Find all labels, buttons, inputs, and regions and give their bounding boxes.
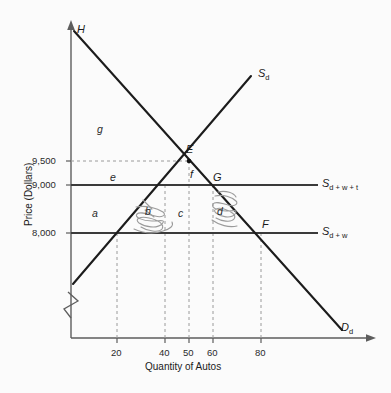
curve-label-demand: Dd	[341, 322, 353, 336]
x-tick-label-80: 80	[255, 348, 266, 358]
region-label-b: b	[145, 206, 151, 217]
region-label-c: c	[178, 208, 183, 219]
point-E-marker	[187, 159, 192, 164]
y-tick-label-9000: 9,000	[32, 180, 56, 190]
point-label-F: F	[262, 219, 269, 230]
x-axis-title: Quantity of Autos	[145, 362, 221, 372]
y-axis-title: Price (Dollars)	[24, 163, 34, 226]
region-label-g: g	[97, 124, 103, 135]
dashed-verticals	[117, 161, 261, 338]
region-label-d: d	[217, 206, 223, 217]
curve-label-supply-world-sub: d + w	[329, 231, 347, 240]
x-tick-label-60: 60	[207, 348, 218, 358]
supply-demand-tariff-chart: Price (Dollars) Quantity of Autos 9,500 …	[0, 0, 391, 393]
point-label-H: H	[77, 24, 85, 35]
region-label-e: e	[110, 172, 116, 183]
region-label-a: a	[92, 208, 98, 219]
y-ticks	[66, 161, 71, 233]
x-tick-label-40: 40	[159, 348, 170, 358]
curve-label-supply-world: Sd + w	[322, 226, 347, 240]
curve-label-demand-base: D	[341, 321, 349, 333]
y-tick-label-9500: 9,500	[32, 156, 56, 166]
point-label-f-lower: f	[190, 169, 193, 180]
x-ticks	[117, 338, 261, 343]
chart-canvas	[0, 0, 391, 393]
x-tick-label-20: 20	[111, 348, 122, 358]
y-tick-label-8000: 8,000	[32, 228, 56, 238]
point-label-G: G	[213, 172, 222, 183]
curve-label-supply-tariff: Sd + w + t	[322, 178, 358, 192]
x-axis-arrowhead	[366, 334, 376, 342]
supply-curve-domestic	[73, 76, 251, 284]
x-tick-label-50: 50	[183, 348, 194, 358]
curve-label-demand-sub: d	[349, 327, 353, 336]
point-label-E: E	[186, 144, 193, 155]
curve-label-supply-domestic-sub: d	[265, 73, 269, 82]
curve-label-supply-tariff-sub: d + w + t	[329, 183, 358, 192]
curve-label-supply-domestic: Sd	[258, 68, 270, 82]
y-axis-arrowhead	[67, 20, 75, 30]
